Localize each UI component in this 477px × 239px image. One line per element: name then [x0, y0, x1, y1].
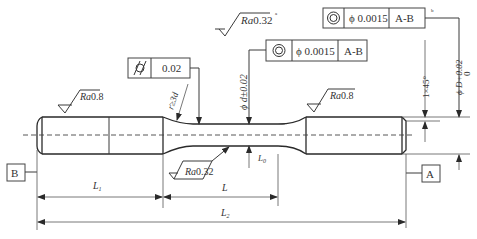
svg-text:ϕ d±0.02: ϕ d±0.02: [238, 74, 249, 110]
roughness-symbol-right-grip: Ra0.8: [307, 89, 355, 112]
svg-text:0.02: 0.02: [162, 62, 181, 74]
technical-drawing: Ra0.32 a ϕ 0.0015 A-B b ϕ 0.0015 A-B ϕ d…: [0, 0, 477, 239]
svg-text:a: a: [275, 11, 278, 16]
roughness-symbol-gauge: Ra0.32: [169, 147, 229, 179]
svg-text:B: B: [11, 167, 18, 179]
svg-text:ϕ 0.0015: ϕ 0.0015: [296, 45, 335, 57]
svg-text:Ra0.8: Ra0.8: [79, 91, 104, 102]
svg-text:b: b: [431, 8, 434, 13]
svg-text:A-B: A-B: [395, 12, 414, 24]
roughness-symbol-left-grip: Ra0.8: [58, 90, 104, 113]
cylindricity-frame: 0.02: [128, 58, 199, 124]
dimension-l2: L2: [38, 207, 405, 222]
svg-text:A: A: [426, 168, 434, 180]
svg-text:L0: L0: [257, 153, 266, 164]
datum-a: A: [406, 165, 440, 182]
gauge-diameter-dimension: ϕ d±0.02 L0: [238, 74, 266, 168]
roughness-symbol-overall: Ra0.32 a: [215, 11, 278, 36]
svg-text:ϕ 0.0015: ϕ 0.0015: [349, 12, 388, 24]
svg-text:Ra0.32: Ra0.32: [240, 14, 272, 26]
svg-text:L1: L1: [92, 180, 102, 192]
svg-text:1×45°: 1×45°: [421, 75, 431, 98]
svg-text:0: 0: [462, 71, 472, 76]
svg-text:Ra0.8: Ra0.8: [329, 90, 354, 101]
concentricity-frame-gauge: ϕ 0.0015 A-B: [249, 40, 367, 124]
svg-text:r≥3d: r≥3d: [165, 90, 180, 110]
datum-b: B: [7, 164, 37, 181]
fillet-radius-dimension: r≥3d: [165, 84, 188, 120]
svg-text:Ra0.32: Ra0.32: [184, 166, 214, 177]
svg-text:A-B: A-B: [344, 45, 363, 57]
svg-text:ϕ D+0.02: ϕ D+0.02: [454, 59, 464, 95]
specimen-outline: [23, 117, 415, 154]
svg-text:L: L: [221, 182, 228, 193]
svg-text:L2: L2: [220, 207, 230, 219]
chamfer-dimension: 1×45°: [406, 40, 440, 142]
dimension-l1: L1: [38, 180, 162, 197]
grip-diameter-dimension: ϕ D+0.02 0: [402, 59, 472, 170]
dimension-l: L: [164, 182, 277, 197]
